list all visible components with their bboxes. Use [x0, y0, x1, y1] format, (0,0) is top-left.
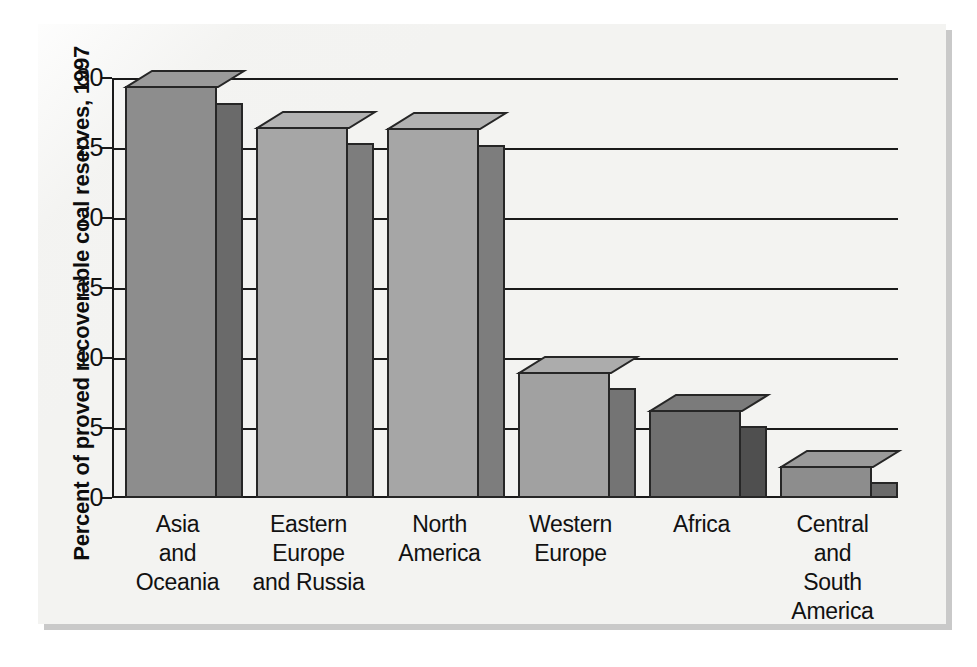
chart-page: Percent of proved recoverable coal reser… [0, 0, 977, 667]
bar-front-face [125, 86, 217, 498]
bar-side-face [741, 426, 767, 498]
bar-side-face [479, 145, 505, 498]
x-axis-label-line: Asia [112, 510, 243, 539]
bar-front-face [780, 466, 872, 498]
y-tick-label-15: 15 [76, 273, 103, 302]
x-axis-label-line: and [112, 539, 243, 568]
x-axis-label-line: and [767, 539, 898, 568]
bar-side-face [348, 143, 374, 498]
x-axis-label-line: Europe [243, 539, 374, 568]
bar-front-face [387, 128, 479, 498]
bar-chart: Percent of proved recoverable coal reser… [38, 24, 946, 624]
x-axis-label-line: Central [767, 510, 898, 539]
bar-front-face [256, 127, 348, 498]
x-axis-label: Africa [636, 510, 767, 539]
x-axis-label-line: Western [505, 510, 636, 539]
x-axis-label: NorthAmerica [374, 510, 505, 568]
bar [780, 466, 872, 498]
x-axis-label-line: Europe [505, 539, 636, 568]
bar-side-face [217, 103, 243, 498]
bar-side-face [872, 482, 898, 498]
x-axis-label-line: Oceania [112, 568, 243, 597]
bar [649, 410, 741, 498]
x-axis-label: WesternEurope [505, 510, 636, 568]
x-axis-label-line: South [767, 568, 898, 597]
bar-front-face [518, 372, 610, 498]
x-axis-label-line: America [374, 539, 505, 568]
y-tick-label-10: 10 [76, 343, 103, 372]
y-tick-label-5: 5 [90, 413, 103, 442]
y-tick-label-20: 20 [76, 203, 103, 232]
bar-front-face [649, 410, 741, 498]
x-axis-label-line: North [374, 510, 505, 539]
y-tick-label-0: 0 [90, 483, 103, 512]
bar [125, 86, 217, 498]
x-axis-label-line: America [767, 597, 898, 626]
x-axis-label: AsiaandOceania [112, 510, 243, 597]
bar [256, 127, 348, 498]
x-axis-label: CentralandSouthAmerica [767, 510, 898, 626]
y-tick-label-30: 30 [76, 63, 103, 92]
x-axis-label: EasternEuropeand Russia [243, 510, 374, 597]
bar [518, 372, 610, 498]
plot-area: 051015202530 [112, 78, 898, 498]
x-axis-label-line: Eastern [243, 510, 374, 539]
x-axis-label-line: Africa [636, 510, 767, 539]
bar-side-face [610, 388, 636, 498]
y-tick-label-25: 25 [76, 133, 103, 162]
bar [387, 128, 479, 498]
x-axis-label-line: and Russia [243, 568, 374, 597]
